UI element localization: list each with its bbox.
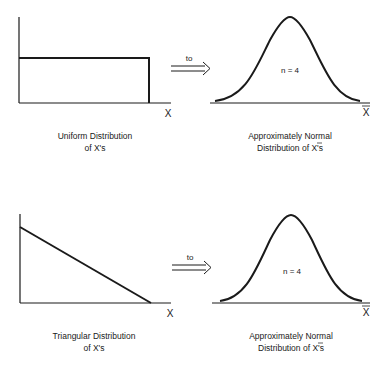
normal-distribution-plot: n = 4 X Approximately Normal Distributio…: [210, 17, 370, 153]
double-arrow-icon: [171, 62, 210, 75]
arrow-label: to: [187, 253, 194, 262]
central-limit-diagram: X Uniform Distribution of X's to n = 4 X…: [0, 0, 385, 369]
xbar-axis-label: X: [363, 107, 370, 118]
triangular-distribution-plot: X Triangular Distribution of X's: [20, 214, 174, 353]
double-arrow-icon: [172, 261, 211, 274]
sample-size-label: n = 4: [281, 66, 300, 75]
transform-arrow: to: [172, 253, 211, 274]
caption-line1: Approximately Normal: [248, 131, 332, 141]
caption-line2: Distribution of X's: [258, 343, 324, 353]
caption-line1: Uniform Distribution: [58, 131, 133, 141]
caption-line1: Approximately Normal: [249, 331, 333, 341]
normal-distribution-plot: n = 4 X Approximately Normal Distributio…: [212, 215, 370, 353]
sample-size-label: n = 4: [283, 267, 302, 276]
caption-line2: of X's: [84, 343, 105, 353]
bell-curve: [220, 215, 362, 301]
uniform-density-line: [19, 58, 149, 103]
bell-curve: [215, 17, 360, 101]
transform-arrow: to: [171, 54, 210, 75]
xbar-axis-label: X: [363, 307, 370, 318]
caption-line2: Distribution of X's: [257, 143, 323, 153]
caption-line2: of X's: [85, 143, 106, 153]
x-axis-label: X: [165, 108, 172, 119]
arrow-label: to: [186, 54, 193, 63]
uniform-distribution-plot: X Uniform Distribution of X's: [19, 17, 172, 153]
caption-line1: Triangular Distribution: [53, 331, 136, 341]
x-axis-label: X: [167, 308, 174, 319]
triangular-density-line: [20, 227, 151, 303]
